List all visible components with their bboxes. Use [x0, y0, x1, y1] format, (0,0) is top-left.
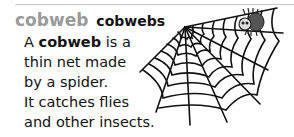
spider-web-icon	[0, 0, 294, 137]
